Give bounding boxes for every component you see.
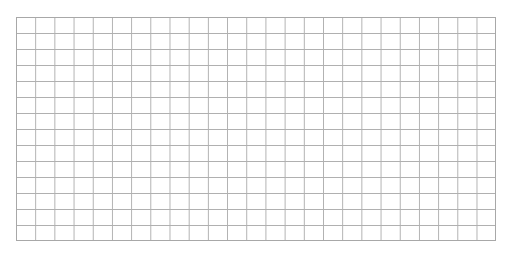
empty-grid [16,17,496,241]
